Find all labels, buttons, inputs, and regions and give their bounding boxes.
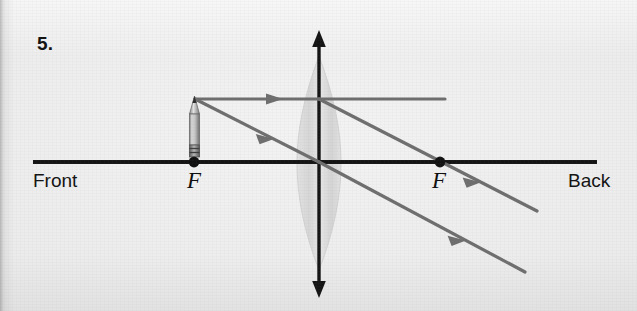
axis-label-back: Back xyxy=(568,170,610,192)
object-pencil xyxy=(190,96,200,157)
axis-label-front: Front xyxy=(33,170,77,192)
ray-arrowheads xyxy=(256,93,481,246)
ray-bundle xyxy=(195,99,537,272)
focal-point-dot-left xyxy=(189,157,200,168)
ray-parallel-refracted xyxy=(319,99,537,211)
focal-point-label-right: F xyxy=(432,168,446,194)
ray-arrowhead-right-icon xyxy=(266,93,283,104)
pencil-body xyxy=(190,114,200,145)
ray-center-continued xyxy=(319,162,525,272)
ray-diagram-figure xyxy=(0,0,637,311)
focal-point-dot-right xyxy=(435,157,446,168)
pencil-ferrule xyxy=(190,145,200,157)
question-number: 5. xyxy=(37,33,53,55)
arrowhead-up-icon xyxy=(312,30,326,47)
worksheet-page: 5. Front Back F F xyxy=(0,0,637,311)
arrowhead-down-icon xyxy=(312,281,326,298)
focal-point-label-left: F xyxy=(187,168,201,194)
